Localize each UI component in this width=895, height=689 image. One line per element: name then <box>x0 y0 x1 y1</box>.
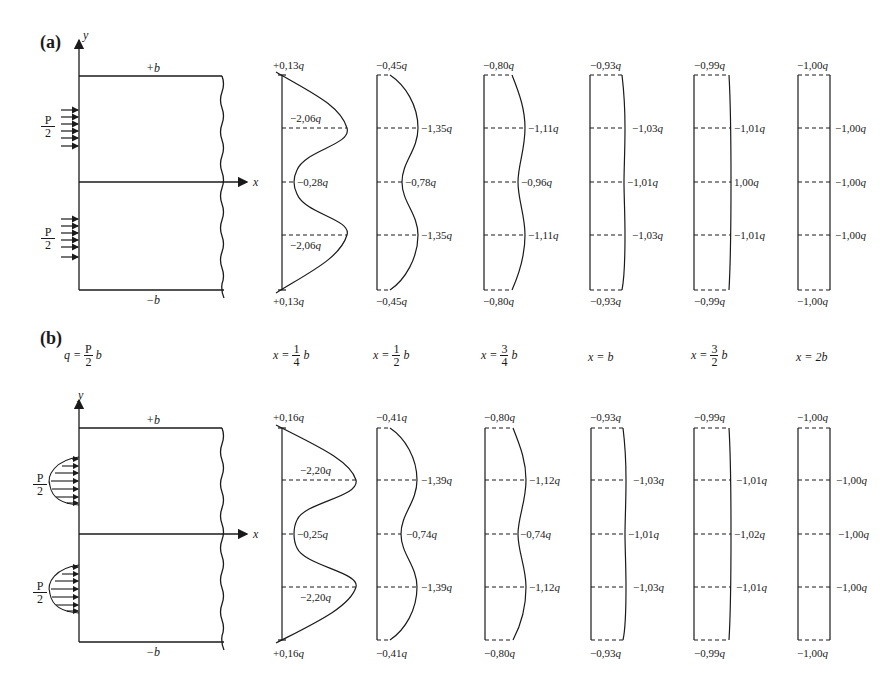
stress-column-b5 <box>694 428 731 640</box>
load-label-a-upper: P2 <box>41 114 55 139</box>
value-b4-mid: −1,01q <box>628 529 659 540</box>
value-a2-top: −0,45q <box>376 60 407 71</box>
value-a4-bottom: −0,93q <box>590 296 621 307</box>
value-a5-lower: −1,01q <box>734 230 765 241</box>
x-position-label-1: x =14b <box>273 343 309 368</box>
value-a1-mid: −0,28q <box>297 177 328 188</box>
plate-a <box>79 40 247 298</box>
value-b1-lower: −2,20q <box>300 592 331 603</box>
value-b1-top: +0,16q <box>273 412 304 423</box>
value-b3-upper: −1,12q <box>529 475 560 486</box>
plate-b-bottom-label: −b <box>146 645 160 660</box>
value-b6-top: −1,00q <box>797 412 828 423</box>
value-b2-lower: −1,39q <box>421 582 452 593</box>
value-a5-upper: −1,01q <box>734 123 765 134</box>
value-b4-bottom: −0,93q <box>590 648 621 659</box>
value-b2-top: −0,41q <box>376 412 407 423</box>
stress-column-a3 <box>484 75 525 290</box>
stress-column-b6 <box>798 428 830 640</box>
value-a3-bottom: −0,80q <box>483 296 514 307</box>
value-b1-upper: −2,20q <box>300 465 331 476</box>
value-b3-mid: −0,74q <box>520 529 551 540</box>
uniform-load-a-upper <box>61 110 78 146</box>
y-axis-label-b: y <box>78 388 83 403</box>
panel-tag-b: (b) <box>40 328 62 349</box>
value-a1-upper: −2,06q <box>290 113 321 124</box>
plate-a-bottom-label: −b <box>146 293 160 308</box>
parabolic-load-b-upper <box>49 457 79 505</box>
value-a5-mid: 1,00q <box>734 177 759 188</box>
value-b5-bottom: −0,99q <box>694 648 725 659</box>
value-a1-lower: −2,06q <box>290 240 321 251</box>
y-axis-label-a: y <box>83 28 88 43</box>
stress-column-a6 <box>798 75 830 290</box>
plate-b-break-line <box>221 428 225 650</box>
stress-column-b4 <box>591 428 626 640</box>
value-a3-upper: −1,11q <box>528 123 559 134</box>
q-definition: q = P2 b <box>64 343 102 368</box>
load-label-b-upper: P2 <box>33 472 47 497</box>
value-a4-lower: −1,03q <box>632 230 663 241</box>
value-b5-mid: −1,02q <box>734 529 765 540</box>
value-a2-lower: −1,35q <box>421 230 452 241</box>
value-b6-upper: −1,00q <box>836 475 867 486</box>
value-a6-mid: −1,00q <box>835 177 866 188</box>
value-b6-lower: −1,00q <box>836 582 867 593</box>
uniform-load-a-lower <box>61 219 78 257</box>
x-position-label-3: x =34b <box>481 343 517 368</box>
value-b2-bottom: −0,41q <box>376 648 407 659</box>
value-b4-upper: −1,03q <box>633 475 664 486</box>
x-position-label-4: x = b <box>588 350 613 365</box>
panel-tag-a: (a) <box>40 32 61 53</box>
value-a6-bottom: −1,00q <box>797 296 828 307</box>
value-b2-upper: −1,39q <box>421 475 452 486</box>
value-a1-bottom: +0,13q <box>273 296 304 307</box>
stress-column-a5 <box>694 75 731 290</box>
value-b4-top: −0,93q <box>590 412 621 423</box>
value-b6-mid: −1,00q <box>838 529 869 540</box>
value-a2-bottom: −0,45q <box>376 296 407 307</box>
value-a2-upper: −1,35q <box>421 123 452 134</box>
x-axis-label-b: x <box>253 527 258 542</box>
plate-b-top-label: +b <box>146 413 160 428</box>
plate-b <box>79 400 247 650</box>
value-b1-bottom: +0,16q <box>273 648 304 659</box>
value-a5-top: −0,99q <box>694 60 725 71</box>
x-position-label-5: x =32b <box>691 343 727 368</box>
value-a1-top: +0,13q <box>273 60 304 71</box>
x-position-label-2: x =12b <box>373 343 409 368</box>
stress-column-a4 <box>590 75 625 290</box>
value-a6-lower: −1,00q <box>835 230 866 241</box>
load-label-a-lower: P2 <box>41 226 55 251</box>
value-b5-top: −0,99q <box>694 412 725 423</box>
value-a6-top: −1,00q <box>797 60 828 71</box>
value-b3-top: −0,80q <box>484 412 515 423</box>
value-a4-top: −0,93q <box>590 60 621 71</box>
value-b4-lower: −1,03q <box>633 582 664 593</box>
plate-a-break-line <box>221 76 225 298</box>
plate-a-top-label: +b <box>146 61 160 76</box>
value-b1-mid: −0,25q <box>297 529 328 540</box>
value-b2-mid: −0,74q <box>406 529 437 540</box>
value-a3-lower: −1,11q <box>528 230 559 241</box>
x-position-label-6: x = 2b <box>796 350 827 365</box>
value-a5-bottom: −0,99q <box>694 296 725 307</box>
value-b5-upper: −1,01q <box>736 475 767 486</box>
value-b6-bottom: −1,00q <box>797 648 828 659</box>
value-b3-lower: −1,12q <box>529 582 560 593</box>
value-a3-mid: −0,96q <box>521 177 552 188</box>
load-label-b-lower: P2 <box>33 580 47 605</box>
value-b5-lower: −1,01q <box>736 582 767 593</box>
value-a3-top: −0,80q <box>483 60 514 71</box>
value-a6-upper: −1,00q <box>835 123 866 134</box>
value-b3-bottom: −0,80q <box>484 648 515 659</box>
value-a4-upper: −1,03q <box>632 123 663 134</box>
value-a2-mid: −0,78q <box>405 177 436 188</box>
value-a4-mid: −1,01q <box>627 177 658 188</box>
parabolic-load-b-lower <box>49 565 79 613</box>
x-axis-label-a: x <box>253 175 258 190</box>
